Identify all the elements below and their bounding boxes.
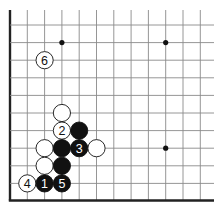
black-stone [53,140,70,157]
black-stone-icon [53,157,70,174]
white-stone-icon [53,104,70,121]
black-stone [71,122,88,139]
move-number: 1 [41,177,48,191]
white-stone-icon [88,140,105,157]
move-number: 4 [24,177,31,191]
white-stone-2: 2 [53,122,70,139]
white-stone [53,104,70,121]
star-point-icon [163,40,168,45]
black-stone-icon [71,122,88,139]
move-number: 6 [41,54,48,68]
move-number: 5 [58,177,65,191]
white-stone-4: 4 [19,175,36,192]
black-stone-3: 3 [71,140,88,157]
white-stone-6: 6 [36,52,53,69]
black-stone-icon [53,140,70,157]
white-stone-icon [36,157,53,174]
star-point-icon [59,40,64,45]
black-stone-5: 5 [53,175,70,192]
go-board-diagram: 623415 [0,0,220,209]
white-stone [88,140,105,157]
white-stone [36,157,53,174]
move-number: 2 [58,124,65,138]
move-number: 3 [76,142,83,156]
white-stone [36,140,53,157]
star-point-icon [163,146,168,151]
black-stone-1: 1 [36,175,53,192]
white-stone-icon [36,140,53,157]
black-stone [53,157,70,174]
